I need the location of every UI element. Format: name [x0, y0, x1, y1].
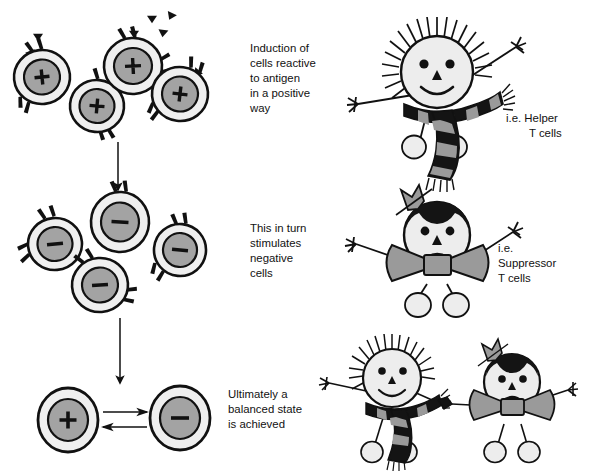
eye [519, 375, 527, 383]
balanced-positive-cell [38, 388, 98, 452]
cell-sign-minus [112, 222, 129, 223]
foot [518, 442, 540, 463]
balanced-negative-cell [150, 386, 210, 450]
bow-tie-knot [424, 255, 451, 275]
eye [421, 227, 430, 236]
immune-regulation-diagram: Induction of cells reactive to antigen i… [0, 0, 589, 473]
foot [405, 293, 431, 317]
eye [378, 367, 386, 375]
diagram-canvas: Induction of cells reactive to antigen i… [0, 0, 589, 473]
foot [484, 442, 506, 463]
bow-tie-knot [501, 399, 524, 415]
foot [402, 136, 426, 159]
eye [446, 227, 455, 236]
eye [399, 367, 407, 375]
eye [445, 59, 454, 68]
cell-sign-minus [172, 249, 188, 250]
cell-sign-minus [92, 284, 108, 285]
eye [498, 375, 506, 383]
cell-sign-minus [47, 243, 63, 244]
foot [361, 442, 383, 463]
foot [443, 293, 469, 317]
eye [419, 59, 428, 68]
